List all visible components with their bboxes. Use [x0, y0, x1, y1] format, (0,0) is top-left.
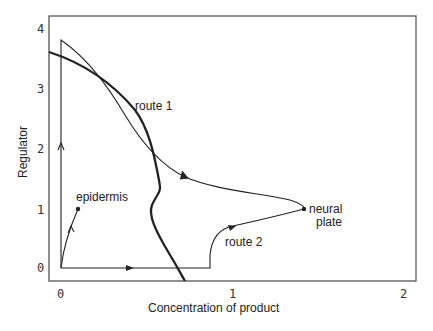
x-axis-title: Concentration of product	[148, 301, 280, 315]
neural-plate-dot	[302, 207, 306, 211]
neural-plate-label-line1: neural	[309, 202, 342, 216]
route-1-arrow-icon	[180, 171, 188, 179]
y-tick-3: 3	[37, 82, 44, 96]
x-tick-0: 0	[57, 287, 64, 301]
epidermis-dot	[76, 207, 80, 211]
arrow-right-icon	[126, 265, 134, 271]
x-tick-2: 2	[400, 287, 407, 301]
y-tick-0: 0	[37, 261, 44, 275]
epidermis-arrow-icon	[68, 226, 74, 233]
epidermis-label: epidermis	[76, 190, 128, 204]
route-1-label: route 1	[135, 99, 173, 113]
epidermis-path	[61, 209, 78, 268]
x-tick-1: 1	[229, 287, 236, 301]
route-1-path	[61, 40, 304, 268]
route-2-label: route 2	[225, 235, 263, 249]
route-2-path	[61, 209, 304, 268]
y-tick-1: 1	[37, 203, 44, 217]
y-tick-4: 4	[37, 22, 44, 36]
y-axis-title: Regulator	[16, 126, 30, 178]
threshold-curve	[49, 52, 185, 281]
route-2-arrow-icon	[228, 225, 236, 231]
neural-plate-label-line2: plate	[316, 215, 342, 229]
phase-diagram: 4 3 2 1 0 0 1 2 Concentration of product…	[0, 0, 433, 331]
y-tick-2: 2	[37, 142, 44, 156]
